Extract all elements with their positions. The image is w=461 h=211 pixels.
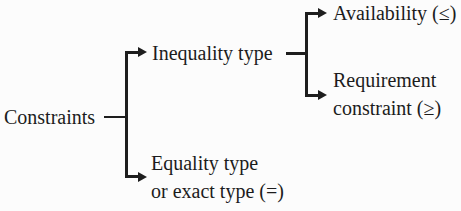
- constraints-tree-diagram: Constraints Inequality type Availability…: [0, 0, 461, 211]
- connector-trunk-level2: [305, 12, 308, 97]
- node-constraints: Constraints: [4, 105, 95, 129]
- arrow-right-icon: [318, 90, 327, 100]
- arrow-right-icon: [138, 47, 147, 57]
- node-requirement-constraint: Requirement constraint (≥): [333, 66, 441, 122]
- connector-to-requirement: [305, 94, 319, 97]
- node-inequality-type: Inequality type: [152, 41, 273, 65]
- connector-trunk-level1: [125, 51, 128, 178]
- node-equality-type: Equality type or exact type (=): [151, 149, 284, 205]
- connector-to-inequality: [125, 51, 139, 54]
- equality-line-2: or exact type (=): [151, 177, 284, 205]
- requirement-line-2: constraint (≥): [333, 94, 441, 122]
- connector-root-stub: [104, 116, 127, 119]
- arrow-right-icon: [318, 8, 327, 18]
- connector-to-equality: [125, 175, 139, 178]
- connector-inequality-stub: [286, 52, 307, 55]
- equality-line-1: Equality type: [151, 149, 284, 177]
- requirement-line-1: Requirement: [333, 66, 441, 94]
- arrow-right-icon: [138, 172, 147, 182]
- connector-to-availability: [305, 12, 319, 15]
- node-availability: Availability (≤): [333, 1, 456, 25]
